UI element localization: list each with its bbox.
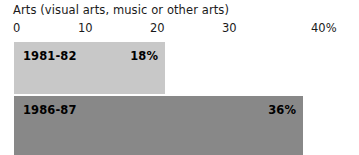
bar-1986-87-value-label: 36%	[268, 103, 296, 117]
bar-1986-87-category-label: 1986-87	[23, 103, 76, 117]
bar-1981-82: 1981-82 18%	[14, 42, 165, 94]
bar-1981-82-category-label: 1981-82	[23, 49, 76, 63]
bar-1986-87: 1986-87 36%	[14, 96, 303, 155]
bar-chart: Arts (visual arts, music or other arts) …	[0, 0, 359, 155]
bar-1981-82-value-label: 18%	[130, 49, 158, 63]
plot-area: 1981-82 18% 1986-87 36%	[0, 0, 359, 155]
